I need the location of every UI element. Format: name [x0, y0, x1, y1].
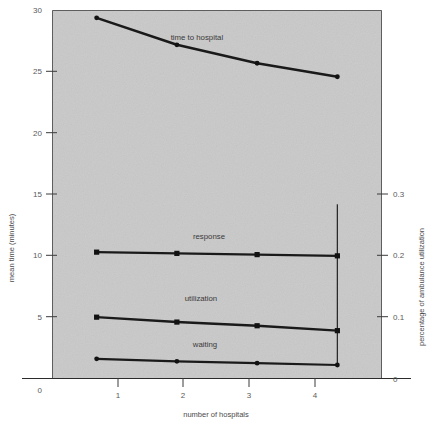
- x-axis-title: number of hospitals: [183, 410, 249, 419]
- y-axis-title: mean time (minutes): [7, 213, 16, 282]
- y-tick-label-5: 5: [38, 313, 43, 322]
- y2-tick-label-0: 0: [393, 375, 398, 384]
- y-tick-label-10: 10: [33, 251, 42, 260]
- x-tick-label-4: 4: [313, 391, 318, 400]
- data-point-2: [174, 319, 179, 324]
- origin-label: 0: [38, 386, 43, 395]
- data-point-3: [255, 252, 260, 257]
- data-point-1: [94, 315, 99, 320]
- y-tick-label-25: 25: [33, 67, 42, 76]
- data-point-4: [335, 253, 340, 258]
- data-point-2: [174, 42, 179, 47]
- data-point-3: [255, 323, 260, 328]
- y-tick-label-15: 15: [33, 190, 42, 199]
- x-tick-label-2: 2: [181, 391, 186, 400]
- data-point-4: [335, 363, 340, 368]
- data-point-1: [94, 356, 99, 361]
- series-label-response: response: [193, 232, 225, 241]
- x-tick-label-1: 1: [116, 391, 121, 400]
- data-point-1: [94, 15, 99, 20]
- x-tick-label-3: 3: [247, 391, 252, 400]
- y-tick-label-20: 20: [33, 129, 42, 138]
- series-label-utilization: utilization: [185, 294, 218, 303]
- chart-figure: 30 25 20 15 10 5 0 0.3 0.2 0.1 0 1 2 3 4…: [0, 0, 432, 427]
- y2-tick-label-0-3: 0.3: [393, 190, 405, 199]
- data-point-1: [94, 250, 99, 255]
- data-point-4: [335, 328, 340, 333]
- data-point-3: [255, 61, 260, 66]
- series-label-waiting: waiting: [192, 340, 217, 349]
- data-point-2: [174, 251, 179, 256]
- y2-tick-label-0-1: 0.1: [393, 313, 405, 322]
- chart-svg: 30 25 20 15 10 5 0 0.3 0.2 0.1 0 1 2 3 4…: [0, 0, 432, 427]
- data-point-3: [255, 361, 260, 366]
- y2-axis-title: percentage of ambulance utilization: [417, 228, 426, 346]
- data-point-4: [335, 74, 340, 79]
- x-axis-ticks: [118, 378, 315, 387]
- data-point-2: [174, 359, 179, 364]
- y-tick-label-30: 30: [33, 6, 42, 15]
- series-label-time-to-hospital: time to hospital: [171, 33, 224, 42]
- y2-tick-label-0-2: 0.2: [393, 251, 405, 260]
